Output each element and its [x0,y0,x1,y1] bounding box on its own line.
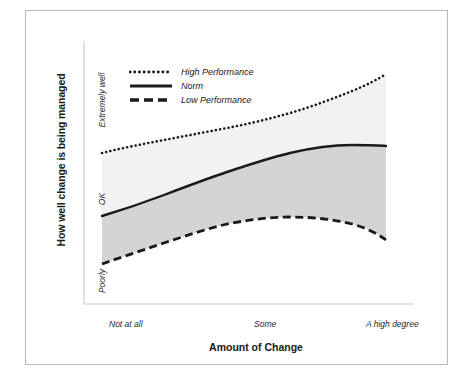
legend-item-norm: Norm [129,79,254,93]
y-tick-text-extremely-well: Extremely well [97,65,107,135]
legend-item-high-performance: High Performance [129,65,254,79]
legend-swatch-dotted [129,66,173,78]
legend-swatch-solid [129,80,173,92]
y-tick-label-poorly: Poorly [73,276,131,286]
y-tick-text-ok: OK [97,182,107,216]
legend-label-low-performance: Low Performance [181,95,252,105]
x-tick-label-some: Some [254,319,276,329]
legend-label-high-performance: High Performance [181,67,254,77]
y-tick-label-extremely-well: Extremely well [67,95,137,105]
x-tick-label-a-high-degree: A high degree [366,319,419,329]
chart-legend: High Performance Norm Low Performance [129,65,254,107]
y-tick-text-poorly: Poorly [97,252,107,310]
x-tick-label-not-at-all: Not at all [109,319,143,329]
legend-item-low-performance: Low Performance [129,93,254,107]
plot-area [26,11,447,364]
x-axis-title: Amount of Change [86,341,426,353]
y-axis-title: How well change is being managed [55,60,67,260]
legend-label-norm: Norm [181,81,203,91]
y-tick-label-ok: OK [85,194,119,204]
chart-frame: High Performance Norm Low Performance [25,10,448,365]
chart-figure: High Performance Norm Low Performance [0,0,473,390]
